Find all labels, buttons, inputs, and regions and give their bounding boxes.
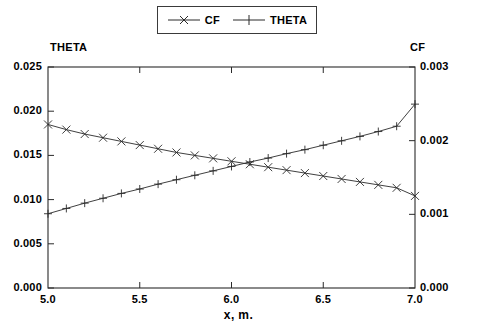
y-tick-label-left: 0.010 <box>0 193 42 205</box>
tick-marks <box>48 67 415 288</box>
data-series <box>44 100 419 218</box>
series-theta <box>44 100 419 218</box>
x-axis-label: x, m. <box>0 308 477 322</box>
y-tick-label-left: 0.015 <box>0 148 42 160</box>
plot-border <box>48 67 415 288</box>
y-tick-label-right: 0.000 <box>420 281 449 293</box>
y-tick-label-right: 0.003 <box>420 60 449 72</box>
x-tick-label: 6.5 <box>298 293 348 305</box>
y-tick-label-left: 0.005 <box>0 237 42 249</box>
y-tick-label-left: 0.000 <box>0 281 42 293</box>
y-tick-label-left: 0.020 <box>0 104 42 116</box>
x-tick-label: 5.0 <box>23 293 73 305</box>
axes-frame <box>48 67 415 288</box>
y-tick-label-right: 0.002 <box>420 134 449 146</box>
x-tick-label: 6.0 <box>207 293 257 305</box>
x-tick-label: 5.5 <box>115 293 165 305</box>
chart-figure: CF THETA THETA CF 0.0000.0050.0100.0150.… <box>0 0 477 330</box>
plot-canvas <box>0 0 477 330</box>
series-cf <box>44 120 419 199</box>
x-tick-label: 7.0 <box>390 293 440 305</box>
y-tick-label-right: 0.001 <box>420 207 449 219</box>
y-tick-label-left: 0.025 <box>0 60 42 72</box>
